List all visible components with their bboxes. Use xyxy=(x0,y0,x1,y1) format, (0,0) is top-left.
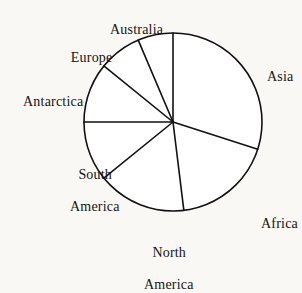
pie-label-australia-text: Australia xyxy=(110,22,163,37)
pie-label-asia-text: Asia xyxy=(267,69,293,84)
pie-label-africa: Africa xyxy=(247,200,298,248)
pie-label-europe: Europe xyxy=(56,34,112,82)
pie-label-asia: Asia xyxy=(253,53,294,101)
pie-label-europe-text: Europe xyxy=(71,50,113,65)
pie-label-north-america-line1: North xyxy=(152,245,186,260)
pie-label-south-america-line1: South xyxy=(78,167,112,182)
pie-label-south-america-line2: America xyxy=(70,199,120,214)
pie-label-north-america: North America xyxy=(130,229,194,293)
pie-label-south-america: South America xyxy=(56,151,120,231)
pie-label-north-america-line2: America xyxy=(144,277,194,292)
pie-label-antarctica-text: Antarctica xyxy=(23,94,83,109)
pie-label-africa-text: Africa xyxy=(261,216,298,231)
pie-label-antarctica: Antarctica xyxy=(9,78,83,126)
